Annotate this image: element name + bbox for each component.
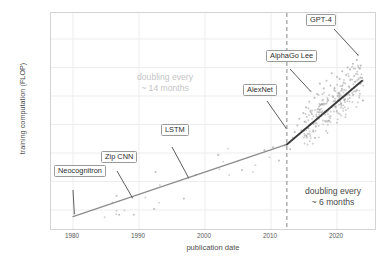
annotation-alphago-lee[interactable]: AlphaGo Lee	[266, 50, 317, 62]
x-tick-label-2010: 2010	[263, 232, 277, 239]
annotation-alexnet[interactable]: AlexNet	[243, 84, 277, 96]
note-post-line2: ~ 6 months	[283, 197, 383, 208]
chart-root: training computation (FLOP) 1e+27 1e+24 …	[0, 0, 385, 262]
x-axis-title: publication date	[50, 243, 376, 252]
x-tick-label-2000: 2000	[197, 232, 211, 239]
note-deep-learning: doubling every ~ 6 months	[283, 186, 383, 209]
x-tick-label-1980: 1980	[65, 232, 79, 239]
annotation-zip-cnn[interactable]: Zip CNN	[101, 151, 137, 163]
note-post-line1: doubling every	[283, 186, 383, 197]
x-tick-label-2020: 2020	[329, 232, 343, 239]
note-pre-deep-learning: doubling every ~ 14 months	[105, 72, 225, 95]
x-tick-label-1990: 1990	[131, 232, 145, 239]
annotation-neocognitron[interactable]: Neocognitron	[54, 165, 106, 177]
note-pre-line2: ~ 14 months	[105, 83, 225, 94]
note-pre-line1: doubling every	[105, 72, 225, 83]
annotation-lstm[interactable]: LSTM	[161, 124, 189, 136]
annotation-gpt4[interactable]: GPT‑4	[306, 14, 336, 26]
y-axis-title: training computation (FLOP)	[18, 29, 27, 189]
